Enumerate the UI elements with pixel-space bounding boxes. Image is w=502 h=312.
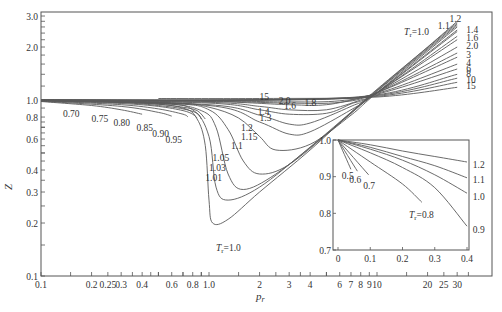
curve-label: 1.03 — [209, 163, 226, 173]
y-tick-label: 3.0 — [26, 12, 38, 22]
x-tick-label: 7 — [349, 280, 354, 290]
curve-label: 1.1 — [438, 21, 450, 31]
inset-y-tick-label: 0.9 — [319, 172, 331, 182]
y-tick-label: 0.1 — [26, 272, 38, 282]
y-axis-title: Z — [2, 183, 14, 190]
inset-x-tick-label: 0.2 — [397, 254, 409, 264]
curve-label: 1.2 — [241, 123, 253, 133]
inset-x-tick-label: 0 — [336, 254, 341, 264]
curve-label: 15 — [466, 81, 476, 91]
x-tick-label: 6 — [337, 280, 342, 290]
curve-label: 0.75 — [92, 114, 109, 124]
x-tick-label: 2 — [257, 280, 262, 290]
x-tick-label: 0.8 — [187, 280, 199, 290]
curve-label: 0.70 — [63, 109, 80, 119]
curve-label: 0.80 — [113, 118, 130, 128]
compressibility-chart: 0.10.20.250.30.40.60.81.0234678910202530… — [0, 0, 502, 312]
inset-x-tick-label: 0.1 — [364, 254, 376, 264]
y-tick-label: 0.3 — [26, 188, 38, 198]
curve-label: 1.8 — [304, 98, 316, 108]
inset-y-tick-label: 0.7 — [319, 246, 331, 256]
x-tick-label: 3 — [287, 280, 292, 290]
y-tick-label: 0.6 — [26, 135, 38, 145]
inset-plot: 00.10.20.30.40.70.80.91.00.50.60.7Tr=0.8… — [319, 136, 485, 265]
curve-label: 1.01 — [205, 173, 222, 183]
curve-label: Tr=1.0 — [216, 243, 241, 255]
curve-label: 1.05 — [213, 153, 230, 163]
curve-label: 1.2 — [449, 14, 461, 24]
curve-label: 1.4 — [258, 107, 270, 117]
curve-label: 1.1 — [231, 141, 243, 151]
curve-label: 0.6 — [349, 175, 361, 185]
x-tick-label: 9 — [367, 280, 372, 290]
x-tick-label: 0.2 — [86, 280, 98, 290]
x-tick-label: 0.6 — [166, 280, 178, 290]
x-tick-label: 0.4 — [136, 280, 148, 290]
x-tick-label: 8 — [358, 280, 363, 290]
x-tick-label: 30 — [452, 280, 462, 290]
inset-x-tick-label: 0.4 — [461, 254, 473, 264]
curve-label: 0.95 — [165, 135, 182, 145]
curve-label: 1.0 — [473, 192, 485, 202]
x-axis-title: pr — [255, 290, 266, 304]
curve-label: 15 — [260, 92, 270, 102]
x-tick-label: 0.25 — [100, 280, 117, 290]
y-tick-label: 0.4 — [26, 166, 38, 176]
x-tick-label: 0.1 — [35, 280, 47, 290]
inset-x-tick-label: 0.3 — [429, 254, 441, 264]
curve-label: Tr=1.0 — [404, 27, 429, 39]
x-tick-label: 25 — [439, 280, 449, 290]
x-tick-label: 0.3 — [115, 280, 127, 290]
x-tick-label: 4 — [308, 280, 313, 290]
y-tick-label: 0.8 — [26, 113, 38, 123]
inset-y-tick-label: 1.0 — [319, 136, 331, 146]
curve-label: 2.0 — [279, 96, 291, 106]
curve-label: 0.9 — [473, 225, 485, 235]
y-tick-label: 0.2 — [26, 219, 38, 229]
y-tick-label: 1.0 — [26, 96, 38, 106]
curve-label: 0.7 — [363, 181, 375, 191]
y-tick-label: 2.0 — [26, 43, 38, 53]
curve-label: 0.85 — [136, 123, 153, 133]
x-tick-label: 20 — [423, 280, 433, 290]
inset-y-tick-label: 0.8 — [319, 209, 331, 219]
x-tick-label: 1.0 — [203, 280, 215, 290]
curve-label: 1.2 — [473, 160, 485, 170]
curve-label: 1.1 — [473, 175, 485, 185]
curve-tr3 — [41, 64, 457, 100]
x-tick-label: 10 — [372, 280, 382, 290]
